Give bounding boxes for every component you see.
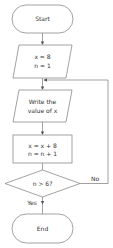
- output-box: Write the value of x: [13, 90, 72, 122]
- start-label: Start: [35, 15, 50, 22]
- output-line-1: Write the: [29, 98, 57, 105]
- decision-label: n > 6?: [33, 180, 53, 187]
- arrow-head-icon: [41, 42, 44, 46]
- arrow-head-icon: [41, 201, 44, 205]
- process-line-1: x = x + 8: [28, 142, 57, 149]
- arrow-head-icon: [44, 78, 48, 81]
- decision-diamond: n > 6?: [5, 170, 80, 197]
- init-line-1: x = 8: [34, 53, 50, 60]
- end-terminal: End: [12, 214, 73, 243]
- start-terminal: Start: [12, 5, 73, 33]
- process-line-2: n = n + 1: [28, 150, 57, 157]
- yes-branch-label: Yes: [26, 199, 37, 206]
- flowchart-diagram: Start x = 8 n = 1 Write the value of x x…: [0, 0, 113, 248]
- arrow-head-icon: [41, 132, 44, 136]
- output-line-2: value of x: [28, 107, 58, 114]
- process-box: x = x + 8 n = n + 1: [13, 135, 72, 163]
- arrow-head-icon: [41, 87, 44, 91]
- no-branch-label: No: [91, 175, 99, 182]
- end-label: End: [37, 225, 49, 232]
- init-input-box: x = 8 n = 1: [13, 45, 72, 78]
- init-line-2: n = 1: [34, 62, 51, 69]
